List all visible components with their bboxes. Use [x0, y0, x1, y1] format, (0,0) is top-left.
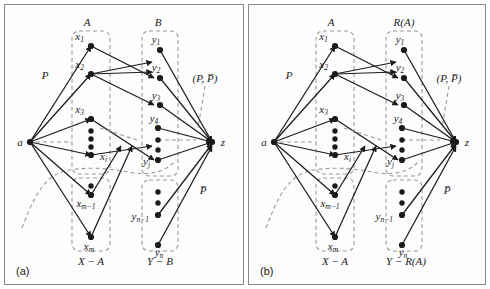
panel-a-nodes — [27, 43, 215, 248]
label-yn: yn — [154, 246, 164, 260]
label-yn1-b: yn−1 — [375, 210, 393, 224]
node-yj[interactable] — [155, 157, 161, 163]
label-y2: y2 — [151, 61, 161, 75]
dot-y-b-b1 — [399, 189, 404, 194]
panel-b-nodes — [271, 43, 459, 248]
label-set-X-minus-A: X − A — [77, 255, 104, 267]
label-node-z: z — [220, 136, 226, 148]
dot-x-a1 — [88, 128, 93, 133]
dot-y-b-a2 — [399, 147, 404, 152]
panel-a-edges-bottom-left — [91, 146, 132, 237]
node-yn1[interactable] — [155, 212, 161, 218]
edge-a-x3 — [30, 119, 91, 142]
node-xm-b[interactable] — [332, 234, 338, 240]
label-xm-b: xm — [327, 240, 339, 254]
node-xm[interactable] — [88, 234, 94, 240]
node-x3-b[interactable] — [332, 116, 338, 122]
label-x1: x1 — [74, 30, 84, 44]
caption-b: (b) — [260, 265, 273, 277]
node-a-b[interactable] — [271, 139, 277, 145]
node-a[interactable] — [27, 139, 33, 145]
panel-a-edges-middle — [91, 46, 154, 160]
dot-x-b-a3 — [332, 144, 337, 149]
node-z-b[interactable] — [453, 139, 459, 145]
edge-a-x1 — [30, 46, 91, 142]
label-set-B: B — [155, 16, 162, 28]
edge-yj-z — [158, 142, 212, 160]
node-y2-b[interactable] — [401, 75, 407, 81]
label-set-X-minus-A-b: X − A — [321, 255, 348, 267]
label-y3-b: y3 — [395, 89, 405, 103]
node-xm1-b[interactable] — [332, 192, 338, 198]
dot-x-a2 — [88, 136, 93, 141]
node-x1-b[interactable] — [332, 43, 338, 49]
edge-xm-up — [91, 146, 132, 237]
edge-x3-dash-b — [344, 128, 384, 141]
label-xi: xi — [99, 150, 107, 164]
node-xi-b[interactable] — [332, 152, 338, 158]
dot-x-a3 — [88, 144, 93, 149]
edge-a-x3-b — [274, 119, 335, 142]
node-y2[interactable] — [157, 75, 163, 81]
label-x3-b: x3 — [318, 103, 328, 117]
node-x2[interactable] — [88, 71, 94, 77]
panel-b-edges-middle — [335, 46, 398, 160]
node-xm1[interactable] — [88, 192, 94, 198]
edge-yj-z-b — [402, 142, 456, 160]
node-x1[interactable] — [88, 43, 94, 49]
label-cut-PPbar-b: (P, P̅) — [437, 72, 462, 85]
label-node-a-b: a — [261, 136, 267, 148]
panel-a-labels: A B X − A Y − B a z P (P, P̅) P̅ x1 x2 x… — [17, 16, 226, 267]
node-yj-b[interactable] — [399, 157, 405, 163]
node-yn1-b[interactable] — [399, 212, 405, 218]
node-x3[interactable] — [88, 116, 94, 122]
node-xi[interactable] — [88, 152, 94, 158]
dot-y-a2 — [155, 147, 160, 152]
label-x3: x3 — [74, 103, 84, 117]
label-Pbar: P̅ — [199, 184, 207, 196]
label-P: P — [41, 69, 49, 81]
node-x2-b[interactable] — [332, 71, 338, 77]
edge-x2-y3-b — [335, 74, 398, 105]
label-xm1-b: xm−1 — [319, 197, 339, 211]
label-y3: y3 — [151, 89, 161, 103]
dot-x-b-a1 — [332, 128, 337, 133]
diagram-canvas: A B X − A Y − B a z P (P, P̅) P̅ x1 x2 x… — [0, 0, 490, 289]
cut-pointer-b — [442, 86, 449, 128]
node-y1[interactable] — [157, 47, 163, 53]
label-P-b: P — [285, 69, 293, 81]
node-y1-b[interactable] — [401, 47, 407, 53]
dot-y-b1 — [155, 189, 160, 194]
dot-y-b-a1 — [399, 137, 404, 142]
caption-a: (a) — [16, 265, 29, 277]
label-yn1: yn−1 — [131, 210, 149, 224]
edge-x3-dash — [100, 128, 140, 141]
label-node-a: a — [17, 136, 23, 148]
edge-a-xm — [30, 142, 91, 237]
figure-root: A B X − A Y − B a z P (P, P̅) P̅ x1 x2 x… — [0, 0, 490, 289]
label-cut-PPbar: (P, P̅) — [193, 72, 218, 85]
node-z[interactable] — [209, 139, 215, 145]
label-set-A: A — [83, 16, 91, 28]
edge-y1-z-b — [404, 50, 456, 142]
cut-pointer-a — [198, 86, 205, 128]
edge-x2-y3 — [91, 74, 154, 105]
edge-a-x1-b — [274, 46, 335, 142]
dot-x-b1 — [88, 183, 93, 188]
label-y1-b: y1 — [395, 33, 405, 47]
label-yn-b: yn — [398, 246, 408, 260]
dot-y-b2 — [155, 200, 160, 205]
label-xm1: xm−1 — [75, 197, 95, 211]
label-xm: xm — [83, 240, 95, 254]
label-xi-b: xi — [343, 150, 351, 164]
label-node-z-b: z — [464, 136, 470, 148]
label-y4-b: y4 — [393, 112, 403, 126]
dot-y-b-b2 — [399, 200, 404, 205]
label-y2-b: y2 — [395, 61, 405, 75]
label-Pbar-b: P̅ — [443, 184, 451, 196]
dot-x-b-a2 — [332, 136, 337, 141]
edge-a-xi — [30, 142, 91, 155]
edge-a-xi-b — [274, 142, 335, 155]
edge-xm-up-b — [335, 146, 376, 237]
edge-a-xm-b — [274, 142, 335, 237]
